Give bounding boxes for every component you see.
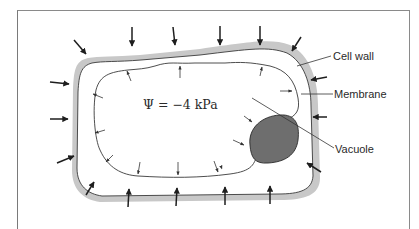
cell-wall-label: Cell wall (333, 51, 374, 62)
membrane-label: Membrane (334, 89, 387, 100)
water-potential-label: Ψ = −4 kPa (143, 99, 218, 112)
cell-diagram (0, 0, 419, 229)
vacuole-label: Vacuole (335, 144, 374, 155)
